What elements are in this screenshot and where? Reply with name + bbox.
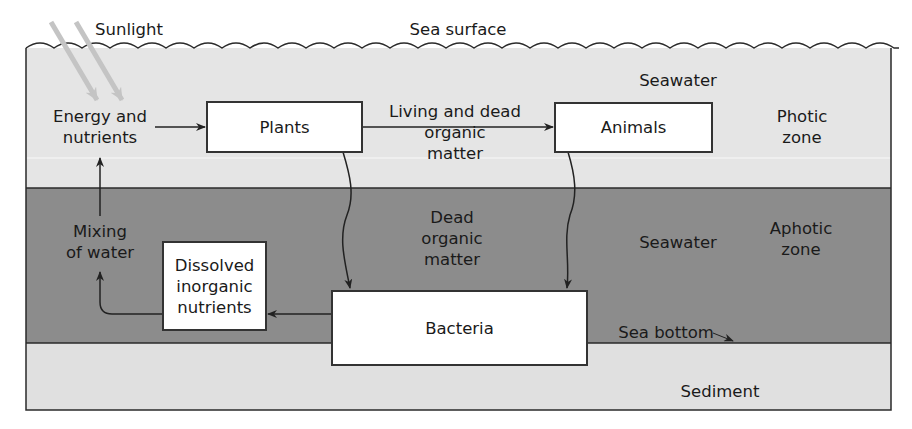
dead-organic-label: Dead organic matter: [421, 207, 482, 270]
photic-zone-label: Photic zone: [777, 106, 828, 148]
bacteria-box: Bacteria: [331, 290, 588, 366]
mixing-water-label: Mixing of water: [66, 221, 134, 263]
living-dead-organic-label: Living and dead organic matter: [389, 101, 521, 164]
seawater-aphotic-label: Seawater: [639, 232, 717, 253]
aphotic-zone-label: Aphotic zone: [770, 218, 832, 260]
seawater-photic-label: Seawater: [639, 70, 717, 91]
sunlight-label: Sunlight: [95, 19, 163, 40]
sea-surface-label: Sea surface: [410, 19, 507, 40]
sea-surface-line: [26, 43, 899, 48]
animals-box: Animals: [554, 102, 713, 153]
dissolved-nutrients-box: Dissolved inorganic nutrients: [162, 241, 267, 331]
energy-nutrients-label: Energy and nutrients: [53, 106, 147, 148]
sea-bottom-label: Sea bottom: [618, 322, 714, 343]
plants-box: Plants: [206, 101, 363, 153]
sediment-label: Sediment: [681, 381, 760, 402]
